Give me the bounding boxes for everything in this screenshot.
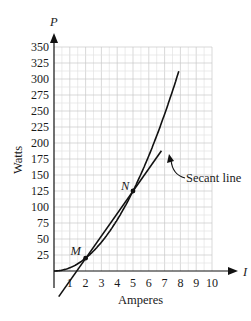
point-n-label: N [120, 179, 130, 193]
svg-text:350: 350 [31, 40, 49, 54]
svg-text:8: 8 [177, 276, 183, 290]
x-tick-labels: 12345678910 [67, 276, 218, 290]
power-chart: 255075100125150175200225250275300325350 … [0, 0, 251, 321]
svg-text:300: 300 [31, 72, 49, 86]
svg-text:7: 7 [162, 276, 168, 290]
svg-text:50: 50 [37, 232, 49, 246]
y-axis-arrow-icon [50, 33, 58, 43]
svg-text:10: 10 [206, 276, 218, 290]
x-axis-label: Amperes [118, 293, 163, 307]
svg-text:275: 275 [31, 88, 49, 102]
secant-annotation: Secant line [186, 171, 242, 185]
x-axis-variable: I [242, 265, 248, 279]
power-curve [54, 71, 179, 271]
svg-text:3: 3 [98, 276, 104, 290]
y-tick-labels: 255075100125150175200225250275300325350 [31, 40, 49, 262]
point-n [131, 189, 136, 194]
svg-text:175: 175 [31, 152, 49, 166]
grid [54, 47, 212, 271]
svg-text:9: 9 [193, 276, 199, 290]
svg-text:6: 6 [146, 276, 152, 290]
svg-text:75: 75 [37, 216, 49, 230]
svg-text:200: 200 [31, 136, 49, 150]
svg-text:2: 2 [83, 276, 89, 290]
svg-text:4: 4 [114, 276, 120, 290]
svg-text:225: 225 [31, 120, 49, 134]
y-axis-variable: P [49, 15, 58, 29]
point-m-label: M [70, 244, 82, 258]
svg-text:100: 100 [31, 200, 49, 214]
annotation-arrow-icon [167, 154, 174, 163]
x-axis-arrow-icon [228, 267, 238, 275]
svg-text:125: 125 [31, 184, 49, 198]
svg-text:5: 5 [130, 276, 136, 290]
svg-text:25: 25 [37, 248, 49, 262]
y-axis-label: Watts [11, 146, 25, 174]
svg-text:150: 150 [31, 168, 49, 182]
secant-line [59, 151, 162, 297]
point-m [83, 256, 88, 261]
svg-text:250: 250 [31, 104, 49, 118]
svg-text:325: 325 [31, 56, 49, 70]
